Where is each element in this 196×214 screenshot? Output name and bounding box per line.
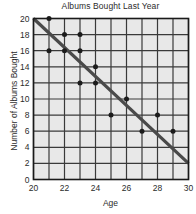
data-point	[109, 113, 114, 118]
x-tick-label: 24	[91, 183, 101, 193]
plot-area: 02468101214161820202224262830	[0, 0, 196, 214]
data-point	[62, 48, 67, 53]
x-tick-label: 30	[184, 183, 194, 193]
data-point	[171, 129, 176, 134]
x-tick-label: 28	[153, 183, 163, 193]
data-point	[78, 32, 83, 37]
data-point	[93, 64, 98, 69]
y-tick-label: 14	[20, 62, 30, 72]
y-tick-label: 20	[20, 14, 30, 24]
y-tick-label: 2	[25, 158, 30, 168]
y-tick-label: 10	[20, 94, 30, 104]
data-point	[62, 32, 67, 37]
data-point	[155, 113, 160, 118]
data-point	[47, 48, 52, 53]
data-point	[93, 80, 98, 85]
y-tick-label: 4	[25, 142, 30, 152]
y-tick-label: 16	[20, 46, 30, 56]
data-point	[140, 129, 145, 134]
data-point	[78, 80, 83, 85]
y-tick-label: 6	[25, 126, 30, 136]
y-tick-label: 18	[20, 30, 30, 40]
x-tick-label: 22	[60, 183, 70, 193]
x-tick-label: 20	[29, 183, 39, 193]
y-tick-label: 8	[25, 110, 30, 120]
data-point	[78, 48, 83, 53]
data-point	[124, 97, 129, 102]
scatter-chart: Albums Bought Last Year Number of Albums…	[0, 0, 196, 214]
y-tick-label: 12	[20, 78, 30, 88]
x-tick-label: 26	[122, 183, 132, 193]
